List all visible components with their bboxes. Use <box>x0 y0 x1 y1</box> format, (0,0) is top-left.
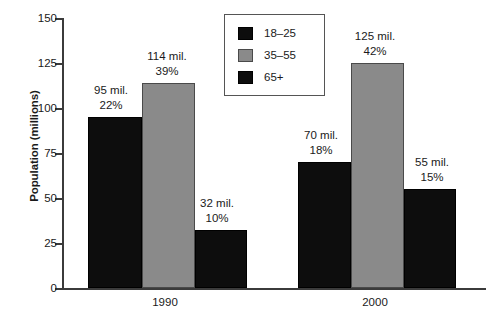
bar-percent: 10% <box>184 211 250 226</box>
y-tick-label: 125 <box>38 57 57 69</box>
bar-value-label: 95 mil.22% <box>78 83 144 113</box>
y-tick-label: 50 <box>44 192 57 204</box>
bar <box>195 230 247 288</box>
y-tick-label: 75 <box>44 147 57 159</box>
bar-value-label: 70 mil.18% <box>288 128 354 158</box>
bar-percent: 18% <box>288 143 354 158</box>
bar-amount: 125 mil. <box>340 29 410 44</box>
bar-value-label: 32 mil.10% <box>184 196 250 226</box>
bar-value-label: 114 mil.39% <box>134 49 200 79</box>
bar-amount: 32 mil. <box>184 196 250 211</box>
y-axis-title: Population (millions) <box>28 46 40 246</box>
legend-rows: 18–2535–5565+ <box>225 22 324 88</box>
bar <box>88 117 142 288</box>
y-tick-label: 100 <box>38 102 57 114</box>
bar <box>142 83 195 288</box>
legend-swatch-icon <box>238 49 253 62</box>
legend-label: 35–55 <box>264 49 296 61</box>
bar <box>404 189 456 288</box>
legend-label: 65+ <box>264 71 284 83</box>
legend-item: 35–55 <box>225 44 324 66</box>
y-tick-label: 0 <box>51 282 57 294</box>
legend-swatch-icon <box>238 27 253 40</box>
bar-value-label: 125 mil.42% <box>340 29 410 59</box>
y-tick-label: 25 <box>44 237 57 249</box>
bar-amount: 114 mil. <box>134 49 200 64</box>
bar-amount: 70 mil. <box>288 128 354 143</box>
bar <box>298 162 351 288</box>
bar-chart: Population (millions) 0255075100125150 9… <box>0 0 488 319</box>
bar-value-label: 55 mil.15% <box>398 155 466 185</box>
bar-percent: 15% <box>398 170 466 185</box>
bar-percent: 42% <box>340 44 410 59</box>
legend-swatch-icon <box>238 71 253 84</box>
bar-amount: 55 mil. <box>398 155 466 170</box>
y-tick-label: 150 <box>38 12 57 24</box>
legend-item: 18–25 <box>225 22 324 44</box>
legend-label: 18–25 <box>264 27 296 39</box>
x-axis-label: 1990 <box>125 296 205 308</box>
bar-percent: 22% <box>78 98 144 113</box>
x-axis-line <box>62 288 486 290</box>
legend-item: 65+ <box>225 66 324 88</box>
bar <box>351 63 404 288</box>
bar-amount: 95 mil. <box>78 83 144 98</box>
x-axis-label: 2000 <box>335 296 415 308</box>
chart-legend: 18–2535–5565+ <box>224 14 325 96</box>
bar-percent: 39% <box>134 64 200 79</box>
